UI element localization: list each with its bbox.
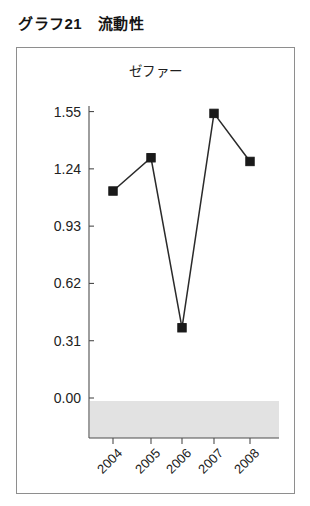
data-point-marker [178, 324, 186, 332]
figure-heading: グラフ21 流動性 [18, 12, 144, 33]
x-tick-group [113, 438, 250, 444]
y-tick-label: 1.24 [54, 161, 81, 177]
y-tick-group: 1.551.240.930.620.310.00 [54, 104, 94, 406]
x-tick-label: 2006 [163, 446, 194, 477]
x-tick-label: 2005 [132, 446, 163, 477]
chart-panel: ゼファー 1.551.240.930.620.310.00 2004200520… [16, 47, 295, 494]
y-tick-label: 0.00 [54, 390, 81, 406]
data-point-marker [109, 187, 117, 195]
y-tick-label: 0.62 [54, 275, 81, 291]
x-tick-label: 2004 [94, 446, 125, 477]
data-point-marker [246, 157, 254, 165]
data-point-marker [210, 109, 218, 117]
line-chart-plot: 1.551.240.930.620.310.00 200420052006200… [17, 48, 296, 495]
series-line-zephyr [113, 113, 250, 327]
baseline-shade-band [90, 401, 279, 438]
x-tick-label-group: 20042005200620072008 [94, 446, 262, 477]
data-point-marker [147, 154, 155, 162]
x-tick-label: 2008 [231, 446, 262, 477]
y-tick-label: 0.31 [54, 333, 81, 349]
x-tick-label: 2007 [195, 446, 226, 477]
series-marker-group [109, 109, 254, 332]
y-tick-label: 0.93 [54, 218, 81, 234]
y-tick-label: 1.55 [54, 104, 81, 120]
